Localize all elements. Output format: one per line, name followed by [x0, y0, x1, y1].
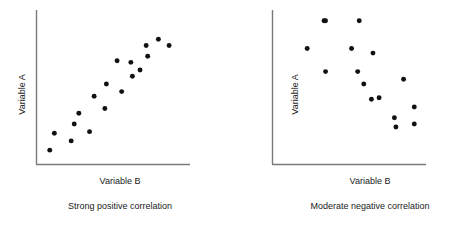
x-axis-label: Variable B	[70, 176, 170, 187]
scatter-point	[102, 106, 107, 111]
scatter-point	[87, 129, 92, 134]
scatter-point	[145, 54, 150, 59]
scatter-point	[305, 46, 310, 51]
scatter-point	[323, 18, 328, 23]
correlation-scatter-figure: Variable A Variable B Strong positive co…	[0, 0, 472, 226]
panel-strong-positive: Variable A Variable B Strong positive co…	[0, 0, 236, 226]
scatter-point	[52, 131, 57, 136]
axes-left	[36, 10, 190, 165]
scatter-point	[401, 77, 406, 82]
scatter-point	[349, 46, 354, 51]
scatter-point	[69, 138, 74, 143]
scatter-point	[412, 122, 417, 127]
scatter-point	[323, 69, 328, 74]
scatter-point	[355, 69, 360, 74]
scatter-point	[115, 58, 120, 63]
scatter-point	[369, 97, 374, 102]
scatter-point	[76, 111, 81, 116]
data-points-left	[47, 37, 171, 153]
scatter-point	[72, 122, 77, 127]
scatter-point	[357, 18, 362, 23]
scatter-point	[138, 68, 143, 73]
x-axis-label: Variable B	[320, 176, 420, 187]
scatter-plot-right	[236, 0, 472, 226]
scatter-point	[119, 89, 124, 94]
scatter-point	[377, 95, 382, 100]
panel-caption: Strong positive correlation	[20, 200, 220, 212]
scatter-point	[128, 60, 133, 65]
scatter-point	[393, 125, 398, 130]
scatter-point	[392, 115, 397, 120]
scatter-plot-left	[0, 0, 236, 226]
scatter-point	[371, 51, 376, 56]
panel-caption: Moderate negative correlation	[270, 200, 470, 212]
scatter-point	[144, 43, 149, 48]
y-axis-label: Variable A	[17, 50, 28, 140]
y-axis-label: Variable A	[290, 50, 301, 140]
scatter-point	[156, 37, 161, 42]
scatter-point	[412, 105, 417, 110]
scatter-point	[92, 94, 97, 99]
panel-moderate-negative: Variable A Variable B Moderate negative …	[236, 0, 472, 226]
scatter-point	[47, 148, 52, 153]
scatter-point	[130, 74, 135, 79]
scatter-point	[167, 43, 172, 48]
data-points-right	[305, 18, 417, 129]
scatter-point	[104, 81, 109, 86]
scatter-point	[361, 81, 366, 86]
